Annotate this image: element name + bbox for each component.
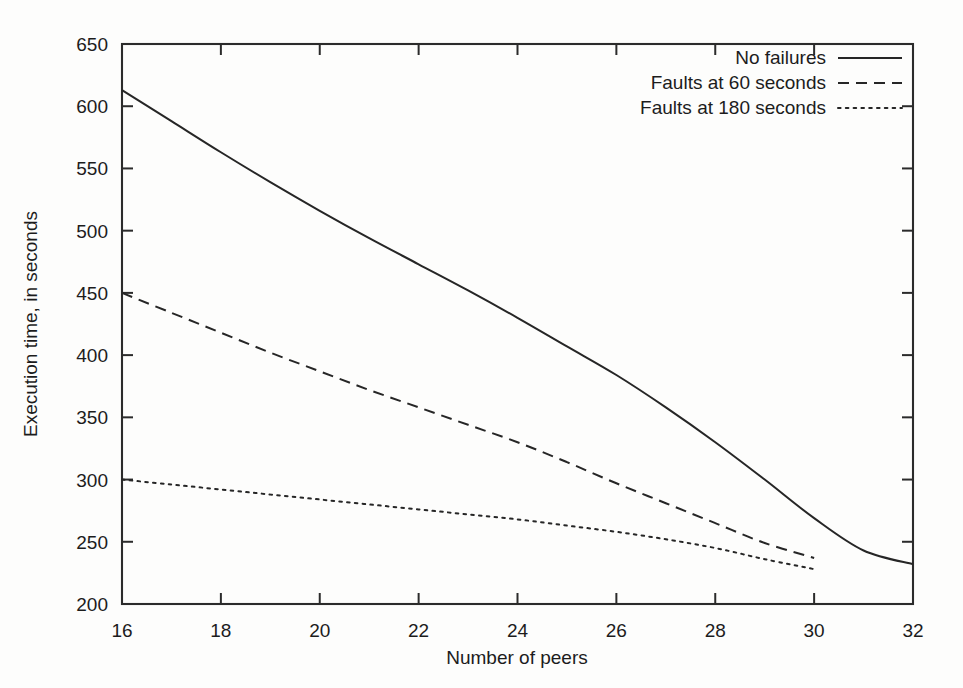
chart-legend: No failuresFaults at 60 secondsFaults at…: [640, 47, 902, 118]
x-tick-label: 32: [902, 620, 923, 641]
y-tick-label: 200: [76, 594, 108, 615]
y-axis-tick-labels: 200250300350400450500550600650: [76, 34, 108, 615]
y-tick-label: 300: [76, 470, 108, 491]
x-tick-label: 30: [804, 620, 825, 641]
x-tick-label: 16: [111, 620, 132, 641]
y-tick-label: 350: [76, 407, 108, 428]
chart-figure: 200250300350400450500550600650 161820222…: [0, 0, 963, 688]
x-tick-label: 28: [705, 620, 726, 641]
x-tick-label: 26: [606, 620, 627, 641]
y-tick-label: 650: [76, 34, 108, 55]
x-tick-label: 18: [210, 620, 231, 641]
legend-label-1: Faults at 60 seconds: [651, 72, 826, 93]
y-tick-label: 550: [76, 158, 108, 179]
y-axis-ticks: [122, 106, 913, 542]
x-tick-label: 22: [408, 620, 429, 641]
y-tick-label: 500: [76, 221, 108, 242]
y-tick-label: 600: [76, 96, 108, 117]
y-tick-label: 400: [76, 345, 108, 366]
legend-label-0: No failures: [735, 47, 826, 68]
x-tick-label: 20: [309, 620, 330, 641]
x-axis-title: Number of peers: [446, 647, 588, 668]
legend-label-2: Faults at 180 seconds: [640, 97, 826, 118]
series-line-0: [122, 90, 913, 564]
y-tick-label: 250: [76, 532, 108, 553]
series-line-1: [122, 293, 814, 558]
data-series-group: [122, 90, 913, 569]
line-chart: 200250300350400450500550600650 161820222…: [0, 0, 963, 688]
y-tick-label: 450: [76, 283, 108, 304]
y-axis-title: Execution time, in seconds: [20, 211, 41, 437]
x-tick-label: 24: [507, 620, 529, 641]
series-line-2: [122, 480, 814, 570]
x-axis-tick-labels: 161820222426283032: [111, 620, 923, 641]
